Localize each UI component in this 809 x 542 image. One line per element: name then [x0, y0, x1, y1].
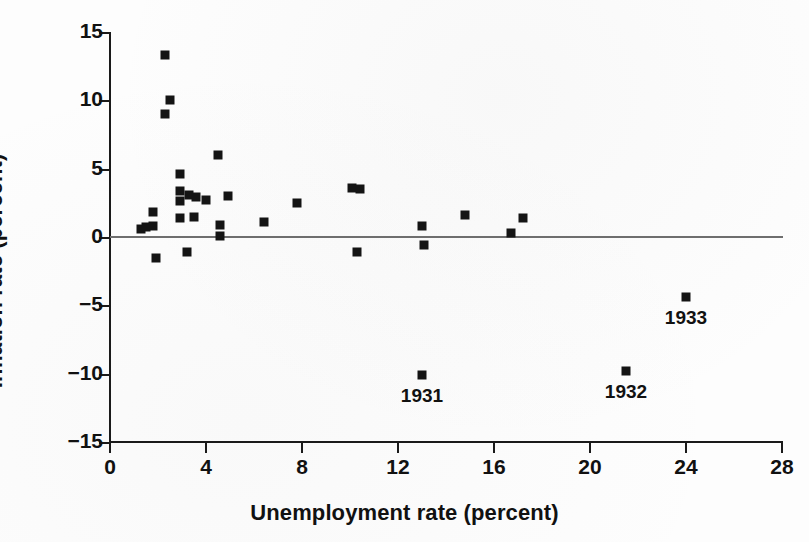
y-tick-label: 5 [91, 157, 103, 179]
scatter-chart-figure: Inflation rate (percent) Unemployment ra… [0, 0, 809, 542]
x-axis-line [110, 441, 783, 443]
data-point-1931 [418, 371, 427, 380]
data-point [420, 241, 429, 250]
x-tick-mark-6 [685, 442, 687, 453]
data-point [293, 198, 302, 207]
data-point [161, 110, 170, 119]
data-point [190, 212, 199, 221]
x-tick-label-2: 8 [296, 456, 308, 478]
data-point [166, 96, 175, 105]
data-point-annotation-1932: 1932 [605, 382, 647, 402]
y-tick-label: −10 [67, 362, 103, 384]
data-point [355, 185, 364, 194]
x-tick-mark-0 [109, 442, 111, 453]
y-axis-title-text: Inflation rate (percent) [0, 154, 8, 389]
x-tick-mark-1 [205, 442, 207, 453]
data-point [216, 220, 225, 229]
x-tick-label-3: 12 [386, 456, 409, 478]
data-point-annotation-1933: 1933 [665, 308, 707, 328]
data-point [216, 231, 225, 240]
data-point [149, 208, 158, 217]
data-point [202, 196, 211, 205]
x-tick-mark-7 [781, 442, 783, 453]
y-tick-label: −15 [67, 430, 103, 452]
x-tick-mark-5 [589, 442, 591, 453]
x-tick-mark-2 [301, 442, 303, 453]
data-point [223, 192, 232, 201]
x-axis-title: Unemployment rate (percent) [0, 500, 809, 526]
y-axis-title: Inflation rate (percent) [0, 0, 30, 542]
data-point-1932 [622, 366, 631, 375]
x-tick-label-0: 0 [104, 456, 116, 478]
x-tick-label-4: 16 [482, 456, 505, 478]
data-point [175, 213, 184, 222]
data-point [182, 248, 191, 257]
data-point [175, 197, 184, 206]
x-tick-label-5: 20 [578, 456, 601, 478]
data-point [192, 193, 201, 202]
y-tick-label: 10 [80, 88, 103, 110]
data-point [506, 228, 515, 237]
data-point [353, 248, 362, 257]
data-point [175, 186, 184, 195]
data-point [151, 253, 160, 262]
data-point [461, 211, 470, 220]
x-tick-mark-4 [493, 442, 495, 453]
data-point [161, 51, 170, 60]
plot-area: 151050−5−10−15 0481216202428 19311932193… [110, 32, 782, 442]
data-point [214, 151, 223, 160]
x-tick-mark-3 [397, 442, 399, 453]
x-tick-label-6: 24 [674, 456, 697, 478]
data-point [175, 170, 184, 179]
y-tick-label: 15 [80, 20, 103, 42]
x-tick-label-1: 4 [200, 456, 212, 478]
data-point [259, 217, 268, 226]
data-point-annotation-1931: 1931 [401, 386, 443, 406]
x-axis-title-text: Unemployment rate (percent) [250, 500, 558, 525]
data-point [518, 213, 527, 222]
zero-reference-line [110, 236, 783, 238]
data-point [149, 222, 158, 231]
x-tick-label-7: 28 [770, 456, 793, 478]
data-point [418, 222, 427, 231]
data-point-1933 [682, 293, 691, 302]
y-tick-label: 0 [91, 225, 103, 247]
y-tick-label: −5 [79, 293, 103, 315]
